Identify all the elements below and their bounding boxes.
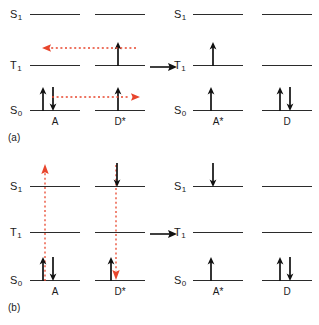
state-label-s0-right-b: S0	[174, 275, 186, 287]
spin-up-arrow	[275, 86, 285, 112]
state-label-t1-left-a: T1	[10, 60, 21, 72]
panel-tag-b: (b)	[8, 303, 20, 313]
level-t1-col-a-panel-a	[30, 65, 80, 66]
spin-down-arrow	[208, 162, 218, 188]
species-label-astar: A*	[193, 287, 243, 297]
level-s1-col-astar-panel-b	[193, 186, 243, 187]
level-t1-col-astar-panel-b	[193, 232, 243, 233]
spin-up-arrow	[206, 86, 216, 112]
spin-up-arrow	[38, 256, 48, 282]
state-label-s0-left-b: S0	[10, 275, 22, 287]
panel-a-dexter-transfer: S1 T1 S0 S1 T1 S0	[0, 0, 319, 155]
state-label-s1-right-b: S1	[174, 181, 186, 193]
spin-up-arrow	[208, 41, 218, 67]
spin-up-arrow	[38, 86, 48, 112]
spin-down-arrow	[48, 256, 58, 282]
state-label-s0-left-a: S0	[10, 105, 22, 117]
species-label-astar: A*	[193, 117, 243, 127]
state-label-t1-left-b: T1	[10, 227, 21, 239]
transfer-arrow-triplet-left	[40, 42, 140, 54]
reaction-arrow	[150, 61, 178, 73]
spin-down-arrow	[285, 86, 295, 112]
level-s0-col-astar-panel-b	[193, 280, 243, 281]
reaction-arrow	[150, 228, 178, 240]
species-label-a: A	[30, 287, 80, 297]
spin-down-arrow	[285, 256, 295, 282]
level-s1-col-a-panel-a	[30, 14, 80, 15]
transfer-arrow-ground-right	[50, 91, 142, 103]
species-label-d: D	[262, 287, 312, 297]
state-label-s1-left-a: S1	[10, 9, 22, 21]
level-t1-col-d-panel-a	[262, 65, 312, 66]
species-label-d: D	[262, 117, 312, 127]
panel-b-forster-transfer: S1 T1 S0 S1 T1 S0	[0, 155, 319, 325]
spin-up-arrow	[106, 256, 116, 282]
spin-up-arrow	[206, 256, 216, 282]
species-label-dstar: D*	[95, 117, 145, 127]
state-label-s1-left-b: S1	[10, 181, 22, 193]
level-s0-col-astar-panel-a	[193, 110, 243, 111]
level-s1-col-astar-panel-a	[193, 14, 243, 15]
species-label-a: A	[30, 117, 80, 127]
panel-tag-a: (a)	[8, 133, 20, 143]
state-label-s0-right-a: S0	[174, 105, 186, 117]
energy-level-diagram: S1 T1 S0 S1 T1 S0	[0, 0, 319, 325]
spin-up-arrow	[275, 256, 285, 282]
level-s1-col-a-panel-b	[30, 186, 80, 187]
level-s1-col-dstar-panel-a	[95, 14, 145, 15]
level-s1-col-d-panel-a	[262, 14, 312, 15]
level-t1-col-d-panel-b	[262, 232, 312, 233]
level-s1-col-d-panel-b	[262, 186, 312, 187]
spin-down-arrow	[112, 162, 122, 188]
state-label-s1-right-a: S1	[174, 9, 186, 21]
level-t1-col-a-panel-b	[30, 232, 80, 233]
species-label-dstar: D*	[95, 287, 145, 297]
level-t1-col-astar-panel-a	[193, 65, 243, 66]
